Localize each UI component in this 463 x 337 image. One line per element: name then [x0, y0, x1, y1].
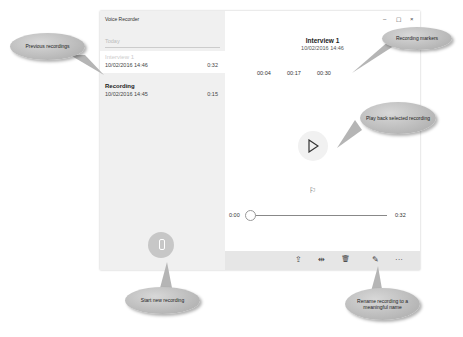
callout-start-recording: Start new recording: [125, 287, 200, 314]
callout-previous-recordings: Previous recordings: [10, 33, 85, 60]
callout-recording-markers: Recording markers: [382, 27, 452, 50]
callout-play: Play back selected recording: [360, 102, 436, 134]
callout-rename: Rename recording to a meaningful name: [345, 288, 420, 320]
